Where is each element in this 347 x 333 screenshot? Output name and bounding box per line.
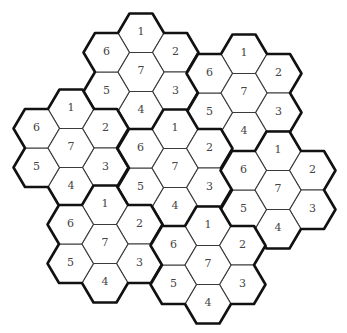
hex-cell-label: 1 — [198, 218, 218, 232]
hex-cell-label: 7 — [131, 64, 151, 78]
hex-cell-label: 4 — [198, 296, 218, 310]
hex-cell-label: 5 — [234, 202, 254, 216]
hex-cell-label: 2 — [200, 141, 220, 155]
hex-cell-label: 3 — [303, 202, 323, 216]
hex-cell-label: 3 — [269, 105, 289, 119]
hex-cell-label: 5 — [200, 105, 220, 119]
hex-cell-label: 3 — [200, 180, 220, 194]
hex-cell-label: 2 — [269, 66, 289, 80]
hex-cell-label: 2 — [233, 238, 253, 252]
hex-cell-label: 3 — [130, 256, 150, 270]
hex-cell-label: 5 — [27, 160, 47, 174]
hex-cell-label: 7 — [198, 257, 218, 271]
hex-cell-label: 5 — [97, 84, 117, 98]
hex-cell-label: 4 — [234, 124, 254, 138]
hex-cell-label: 5 — [131, 180, 151, 194]
hex-cell-label: 7 — [95, 236, 115, 250]
hex-cell-label: 6 — [61, 217, 81, 231]
hex-cell-label: 3 — [96, 160, 116, 174]
hex-cell-label: 3 — [166, 84, 186, 98]
hex-cell-label: 4 — [165, 199, 185, 213]
hex-cell-label: 7 — [165, 160, 185, 174]
hex-cell-label: 6 — [131, 141, 151, 155]
hex-cell-label: 6 — [27, 121, 47, 135]
hex-cell-label: 3 — [233, 277, 253, 291]
hex-cell-label: 1 — [268, 143, 288, 157]
hex-cell-label: 7 — [268, 182, 288, 196]
hex-cell-label: 5 — [61, 256, 81, 270]
hex-cell-label: 1 — [95, 197, 115, 211]
hex-cell-label: 7 — [61, 140, 81, 154]
hex-cell-label: 2 — [303, 163, 323, 177]
hex-cell-label: 2 — [96, 121, 116, 135]
hex-cell-label: 6 — [97, 45, 117, 59]
hex-cell-label: 4 — [268, 221, 288, 235]
hex-cell-label: 2 — [166, 45, 186, 59]
hex-cell-label: 7 — [234, 85, 254, 99]
hex-cell-label: 5 — [164, 277, 184, 291]
hex-cell-label: 6 — [164, 238, 184, 252]
hex-cell-label: 6 — [234, 163, 254, 177]
hex-cell-label: 2 — [130, 217, 150, 231]
hex-cell-label: 1 — [61, 101, 81, 115]
hex-cell-label: 4 — [95, 275, 115, 289]
hex-cell-label: 4 — [61, 179, 81, 193]
hex-cell-label: 1 — [165, 121, 185, 135]
hex-cell-label: 4 — [131, 103, 151, 117]
hex-cell-label: 1 — [131, 25, 151, 39]
hex-cell-label: 6 — [200, 66, 220, 80]
hex-cell-label: 1 — [234, 46, 254, 60]
